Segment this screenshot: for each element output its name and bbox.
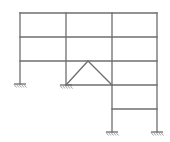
brace: [66, 61, 88, 85]
supports-group: [14, 84, 164, 136]
fixed-support-icon: [106, 132, 119, 136]
fixed-support-icon: [151, 132, 164, 136]
fixed-support-icon: [60, 85, 73, 89]
brace: [88, 61, 112, 85]
structural-frame-diagram: [0, 0, 170, 142]
fixed-support-icon: [14, 84, 27, 88]
braces-group: [66, 61, 112, 85]
columns-group: [20, 13, 157, 132]
